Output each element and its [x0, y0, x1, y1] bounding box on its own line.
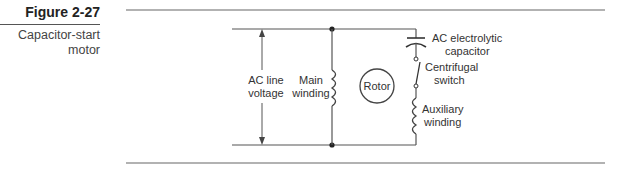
main-winding-icon [329, 26, 335, 147]
aux-winding-label-1: Auxiliary [422, 103, 464, 115]
rotor-label: Rotor [364, 80, 391, 92]
auxiliary-branch [406, 29, 426, 145]
main-winding-label-2: winding [291, 87, 329, 99]
aux-winding-label-2: winding [423, 116, 461, 128]
switch-label-1: Centrifugal [425, 61, 478, 73]
centrifugal-switch-icon [414, 57, 420, 88]
main-winding-label-1: Main [299, 74, 323, 86]
line-voltage-label-1: AC line [248, 74, 283, 86]
line-voltage-label-2: voltage [248, 87, 283, 99]
capacitor-label-1: AC electrolytic [432, 32, 503, 44]
auxiliary-winding-icon [413, 98, 417, 134]
switch-label-2: switch [434, 74, 465, 86]
capacitor-label-2: capacitor [445, 45, 490, 57]
circuit-diagram: AC line voltage Main winding Rotor [0, 0, 623, 171]
